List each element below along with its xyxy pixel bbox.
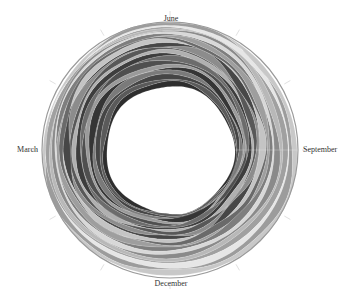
month-tick	[284, 216, 290, 220]
month-tick	[50, 81, 56, 85]
month-tick	[236, 264, 240, 270]
month-tick	[101, 264, 105, 270]
month-tick	[50, 216, 56, 220]
label-march: March	[17, 145, 38, 154]
center-hole	[108, 88, 232, 212]
label-december: December	[155, 279, 188, 288]
label-june: June	[164, 14, 179, 23]
radial-streamgraph-chart: June September December March	[0, 0, 353, 295]
month-tick	[101, 30, 105, 36]
month-tick	[236, 30, 240, 36]
label-september: September	[303, 145, 338, 154]
month-tick	[284, 81, 290, 85]
